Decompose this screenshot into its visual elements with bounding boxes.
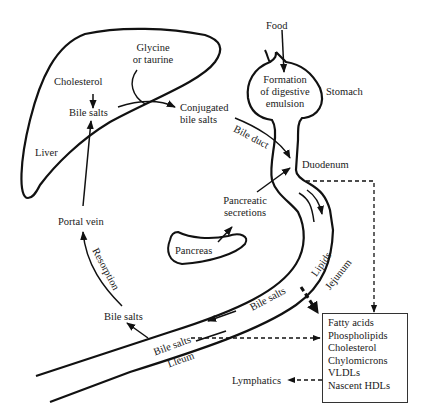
glycine-curve (132, 70, 145, 104)
product-phospholipids: Phospholipids (323, 330, 407, 343)
label-portal-vein: Portal vein (58, 216, 104, 228)
label-bile-salts-liver: Bile salts (69, 107, 108, 119)
label-food: Food (266, 20, 288, 32)
label-pancreas: Pancreas (175, 245, 212, 257)
label-bile-salts-ileum: Bile salts (104, 311, 143, 323)
products-box: Fatty acids Phospholipids Cholesterol Ch… (322, 313, 408, 403)
bile-salts-lumen-arrow (208, 311, 236, 321)
label-emulsion: Formation of digestive emulsion (254, 74, 316, 110)
product-cholesterol: Cholesterol (323, 342, 407, 355)
product-chylomicrons: Chylomicrons (323, 355, 407, 368)
food-arrow (282, 30, 284, 72)
label-lymphatics: Lymphatics (232, 375, 281, 387)
label-pancreatic-secretions: Pancreatic secretions (214, 195, 276, 219)
ileum-inner-line (196, 331, 226, 341)
ileum-resorb-arrow (127, 323, 148, 338)
label-conjugated-bile-salts: Conjugated bile salts (180, 102, 228, 126)
product-vldls: VLDLs (323, 367, 407, 380)
pancreatic-arrow (257, 168, 290, 192)
portal-vein-arrow (83, 121, 91, 206)
label-stomach: Stomach (326, 86, 363, 98)
label-liver: Liver (35, 147, 58, 159)
label-duodenum: Duodenum (302, 159, 349, 171)
product-fatty-acids: Fatty acids (323, 317, 407, 330)
label-glycine-taurine: Glycine or taurine (122, 42, 184, 66)
product-nascent-hdls: Nascent HDLs (323, 380, 407, 393)
label-cholesterol: Cholesterol (54, 76, 102, 88)
